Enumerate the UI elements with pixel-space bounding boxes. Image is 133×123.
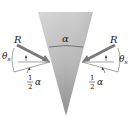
left-half-num: 1 bbox=[28, 74, 32, 82]
left-force-group bbox=[12, 45, 50, 73]
wedge bbox=[38, 12, 93, 116]
right-force-label: R bbox=[109, 34, 118, 45]
left-angle-label: θs bbox=[2, 51, 11, 62]
left-force-arrow bbox=[17, 45, 46, 60]
right-half-num: 1 bbox=[90, 74, 94, 82]
left-half-den: 2 bbox=[28, 83, 32, 91]
right-half-den: 2 bbox=[90, 83, 94, 91]
right-half-alpha: α bbox=[97, 77, 103, 87]
wedge-angle-label: α bbox=[62, 33, 69, 44]
right-force-arrow bbox=[86, 45, 115, 60]
wedge-diagram: α R θs 1 2 α bbox=[0, 0, 133, 123]
right-force-group bbox=[82, 45, 120, 73]
left-half-alpha: α bbox=[35, 77, 41, 87]
right-angle-label: θs bbox=[119, 54, 128, 65]
left-force-label: R bbox=[13, 34, 22, 45]
